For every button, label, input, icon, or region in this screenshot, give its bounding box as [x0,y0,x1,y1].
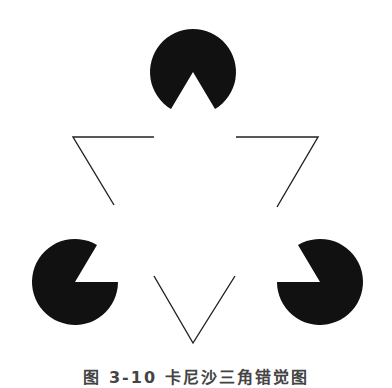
pacman-top [150,29,236,109]
outline-corner-bottom [154,276,235,343]
outline-corner-top-right [236,137,318,207]
pacman-right [277,239,363,325]
figure-caption: 图 3-10 卡尼沙三角错觉图 [0,364,392,388]
pacman-left [32,239,118,325]
outline-corner-top-left [73,137,154,205]
